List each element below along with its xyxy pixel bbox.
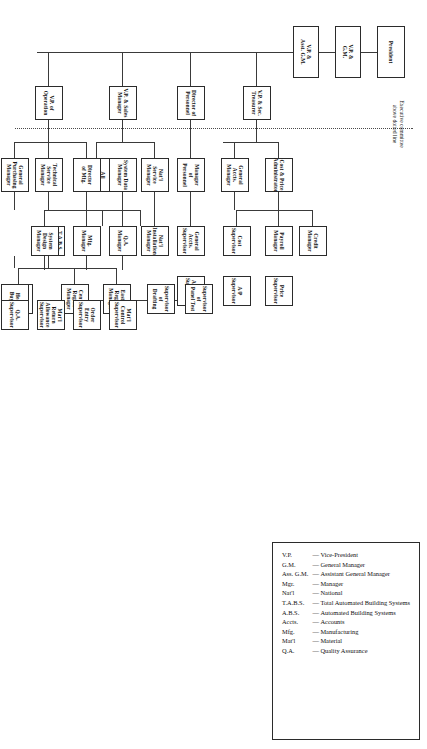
connector: [122, 192, 123, 210]
connector: [190, 142, 191, 158]
node-label: Director of Mfg.: [81, 165, 93, 185]
legend-meaning: Automated Building Systems: [320, 608, 410, 618]
node-general-purchasing-manager[interactable]: General Purchasing Manager: [1, 158, 29, 192]
node-label: General Purchasing Manager: [6, 162, 25, 189]
connector: [14, 142, 15, 158]
node-label: V.P. & Sales Manager: [117, 89, 129, 118]
connector: [86, 210, 87, 226]
connector: [122, 52, 123, 86]
legend-row: A.B.S. — Automated Building Systems: [282, 608, 410, 618]
node-matl-control-supervisor[interactable]: Mat'l Control Supervisor: [109, 300, 137, 330]
node-vp-gm[interactable]: V.P. & G.M.: [335, 26, 361, 78]
node-credit-manager[interactable]: Credit Manager: [299, 226, 327, 256]
node-payroll-manager[interactable]: Payroll Manager: [265, 226, 293, 256]
node-cost-price-administrator[interactable]: Cost & Price Administrator: [265, 158, 293, 192]
node-mfg-manager[interactable]: Mfg. Manager: [73, 226, 101, 256]
node-price-supervisor[interactable]: Price Supervisor: [265, 276, 293, 306]
connector: [116, 268, 117, 284]
connector: [97, 142, 155, 143]
connector: [122, 210, 123, 226]
legend-row: Mgr. — Manager: [282, 579, 410, 589]
node-label: V.P. & Sec. Treasurer: [251, 90, 263, 116]
node-label: Director of Personnel: [185, 90, 197, 116]
node-cost-supervisor[interactable]: Cost Supervisor: [223, 226, 251, 256]
legend-dash: —: [311, 560, 321, 570]
node-vp-asst-gm[interactable]: V.P. & Asst. G.M.: [293, 26, 319, 78]
legend-abbr: V.P.: [282, 550, 311, 560]
node-label: Cost Supervisor: [231, 228, 243, 254]
node-label: V.P. of Operation: [43, 91, 55, 116]
node-director-personnel[interactable]: Director of Personnel: [177, 86, 205, 120]
executive-committee-note: Executive committee above dotted line: [391, 88, 405, 160]
legend-meaning: Vice-President: [320, 550, 410, 560]
legend-row: Mat'l — Material: [282, 636, 410, 646]
connector: [278, 210, 279, 226]
node-label: Payroll Manager: [273, 230, 285, 252]
legend-row: Q.A. — Quality Assurance: [282, 646, 410, 656]
connector: [45, 210, 123, 211]
node-technical-service-manager[interactable]: Technical Service Manager: [35, 158, 63, 192]
connector: [86, 192, 87, 210]
legend-row: Mfg. — Manufacturing: [282, 627, 410, 637]
connector: [256, 120, 257, 142]
connector: [361, 52, 377, 53]
connector: [48, 256, 49, 268]
node-matl-return-allowance-supervisor[interactable]: Mat'l Return Allowance Supervisor: [37, 300, 65, 330]
connector: [14, 256, 15, 268]
legend-row: Ass. G.M. — Assistant General Manager: [282, 569, 410, 579]
connector: [48, 142, 49, 158]
node-label: Supervisor of Panel Test: [190, 286, 209, 312]
node-label: President: [388, 41, 394, 64]
legend-abbr: A.B.S.: [282, 608, 311, 618]
node-label: General Accts. Manager: [226, 164, 245, 186]
node-supervisor-of-panel-test[interactable]: Supervisor of Panel Test: [185, 284, 213, 314]
node-order-entry-supervisor[interactable]: Order Entry Supervisor: [73, 300, 101, 330]
legend-meaning: Assistant General Manager: [320, 569, 410, 579]
node-director-of-mfg[interactable]: Director of Mfg.: [73, 158, 101, 192]
legend-dash: —: [311, 627, 321, 637]
legend-meaning: Quality Assurance: [320, 646, 410, 656]
connector: [48, 52, 49, 86]
node-system-data-manager[interactable]: System Data Manager: [109, 158, 137, 192]
node-qa-manager[interactable]: Q.A. Manager: [109, 226, 137, 256]
node-natl-installation-manager[interactable]: Nat'l Installation Manager: [141, 226, 169, 256]
executive-divider: [15, 128, 413, 129]
node-vp-operation[interactable]: V.P. of Operation: [35, 86, 63, 120]
node-label: System Design Manager: [36, 230, 55, 252]
node-manager-of-personnel[interactable]: Manager of Personnel: [177, 158, 205, 192]
node-vp-sec-treasurer[interactable]: V.P. & Sec. Treasurer: [243, 86, 271, 120]
legend-abbr: T.A.B.S.: [282, 598, 311, 608]
connector: [44, 210, 45, 226]
connector: [48, 192, 49, 210]
legend-meaning: Manager: [320, 579, 410, 589]
node-supervisor-of-drafting[interactable]: Supervisor of Drafting: [147, 284, 175, 314]
connector: [190, 120, 191, 142]
connector: [18, 268, 19, 284]
node-general-accts-manager[interactable]: General Accts. Manager: [221, 158, 249, 192]
node-label: System Data Manager: [117, 160, 129, 190]
legend-dash: —: [311, 636, 321, 646]
node-vp-sales-manager[interactable]: V.P. & Sales Manager: [109, 86, 137, 120]
node-natl-service-manager[interactable]: Nat'l Service Manager: [141, 158, 169, 192]
node-system-design-manager[interactable]: System Design Manager: [31, 226, 59, 256]
node-label: Credit Manager: [307, 230, 319, 252]
node-label: Q.A. Supervisor: [9, 302, 21, 328]
connector: [74, 268, 75, 284]
node-ap-supervisor[interactable]: A/P Supervisor: [223, 276, 251, 306]
connector: [154, 192, 155, 210]
connector: [15, 142, 87, 143]
legend-meaning: Accounts: [320, 617, 410, 627]
legend-meaning: General Manager: [320, 560, 410, 570]
legend-row: V.P. — Vice-President: [282, 550, 410, 560]
legend-dash: —: [311, 569, 321, 579]
connector: [237, 210, 313, 211]
node-label: Manager of Personnel: [182, 163, 201, 187]
node-president[interactable]: President: [377, 26, 405, 78]
node-qa-supervisor[interactable]: Q.A. Supervisor: [1, 300, 29, 330]
node-label: Technical Service Manager: [40, 164, 59, 187]
legend-dash: —: [311, 617, 321, 627]
connector: [278, 142, 279, 158]
connector: [190, 210, 191, 226]
node-general-accts-supervisor[interactable]: General Accts. Supervisor: [177, 226, 205, 256]
connector: [154, 210, 155, 226]
